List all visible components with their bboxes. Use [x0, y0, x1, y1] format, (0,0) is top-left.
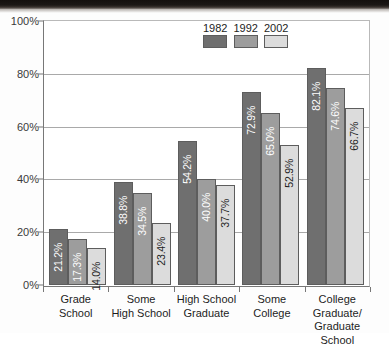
y-axis-tick-label: 100% [0, 15, 39, 27]
bar-value-label: 65.0% [266, 127, 277, 156]
x-axis-label-line: College [239, 307, 304, 321]
x-axis-labels: Grade SchoolSomeHigh SchoolHigh SchoolGr… [43, 293, 370, 333]
bar-groups: 21.2%17.3%14.0%38.8%34.5%23.4%54.2%40.0%… [46, 21, 368, 285]
bar: 82.1% [307, 68, 326, 285]
legend-item: 2002 [264, 22, 288, 48]
x-axis-tick-mark [174, 287, 175, 292]
x-axis-tick-mark [108, 287, 109, 292]
scan-artifact-band [0, 0, 389, 9]
x-axis-tick-mark [239, 287, 240, 292]
bar-group: 82.1%74.6%66.7% [303, 21, 367, 285]
bar-value-label: 74.6% [330, 101, 341, 130]
plot-area: 21.2%17.3%14.0%38.8%34.5%23.4%54.2%40.0%… [43, 20, 370, 287]
bar-value-label: 82.1% [311, 82, 322, 111]
bar-value-label: 23.4% [156, 237, 167, 266]
x-axis-label-line: College Graduate/ [305, 293, 370, 320]
bar: 72.9% [242, 92, 261, 284]
x-axis-label: SomeHigh School [108, 293, 173, 333]
bar: 66.7% [345, 108, 364, 284]
bar-value-label: 34.5% [137, 207, 148, 236]
bar: 17.3% [68, 239, 87, 285]
legend-label: 2002 [264, 22, 288, 34]
y-axis-tick-label: 20% [0, 226, 39, 238]
y-axis-tick-label: 0% [0, 279, 39, 291]
x-axis-label: High SchoolGraduate [174, 293, 239, 333]
bar-value-label: 54.2% [182, 155, 193, 184]
bar-group: 38.8%34.5%23.4% [110, 21, 174, 285]
bar: 38.8% [114, 182, 133, 284]
bar: 65.0% [261, 113, 280, 285]
bar-value-label: 37.7% [220, 199, 231, 228]
bar: 37.7% [216, 185, 235, 285]
bar-value-label: 72.9% [247, 106, 258, 135]
x-axis-tick-mark [370, 287, 371, 292]
y-axis-tick-label: 80% [0, 68, 39, 80]
bar-value-label: 17.3% [72, 253, 83, 282]
legend-item: 1992 [233, 22, 257, 48]
legend: 198219922002 [203, 22, 288, 48]
bar: 74.6% [326, 88, 345, 285]
bar: 34.5% [133, 193, 152, 284]
x-axis-label-line: Some [108, 293, 173, 307]
bar-value-label: 14.0% [91, 261, 102, 290]
x-axis-label-line: Grade School [43, 293, 108, 320]
bar: 21.2% [49, 229, 68, 285]
legend-swatch [203, 35, 227, 48]
bar-group: 72.9%65.0%52.9% [239, 21, 303, 285]
x-axis-label: Grade School [43, 293, 108, 333]
x-axis-label-line: High School [108, 307, 173, 321]
x-axis-label: SomeCollege [239, 293, 304, 333]
y-axis-tick-label: 40% [0, 173, 39, 185]
x-axis-label: College Graduate/Graduate School [305, 293, 370, 333]
bar: 14.0% [87, 248, 106, 285]
x-axis-label-line: Graduate [174, 307, 239, 321]
legend-swatch [264, 35, 288, 48]
bar-value-label: 66.7% [349, 122, 360, 151]
bar: 52.9% [280, 145, 299, 285]
bar-value-label: 21.2% [53, 242, 64, 271]
legend-label: 1992 [233, 22, 257, 34]
bar: 40.0% [197, 179, 216, 285]
bar-group: 54.2%40.0%37.7% [174, 21, 238, 285]
x-axis-tick-mark [305, 287, 306, 292]
bar: 23.4% [152, 223, 171, 285]
bar-value-label: 52.9% [285, 159, 296, 188]
y-axis-tick-label: 60% [0, 121, 39, 133]
legend-item: 1982 [203, 22, 227, 48]
legend-label: 1982 [203, 22, 227, 34]
bar-group: 21.2%17.3%14.0% [46, 21, 110, 285]
scan-artifact-fade [0, 9, 389, 13]
x-axis-label-line: Some [239, 293, 304, 307]
bar-value-label: 38.8% [118, 196, 129, 225]
bar-value-label: 40.0% [201, 193, 212, 222]
legend-swatch [234, 35, 258, 48]
x-axis-label-line: Graduate School [305, 320, 370, 347]
x-axis-tick-mark [43, 287, 44, 292]
bar: 54.2% [178, 141, 197, 284]
x-axis-label-line: High School [174, 293, 239, 307]
